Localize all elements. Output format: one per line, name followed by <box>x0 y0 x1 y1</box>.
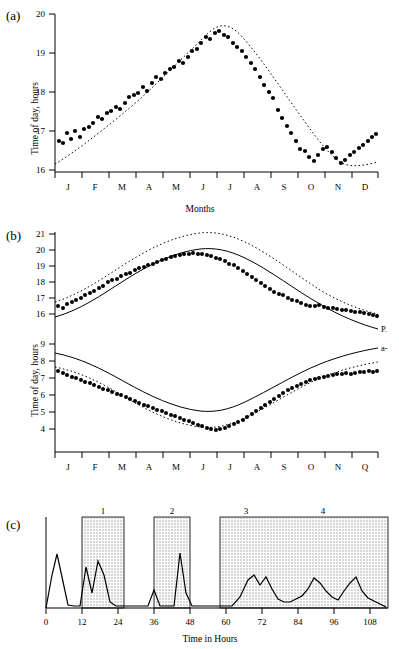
panel-a-label: (a) <box>6 8 20 24</box>
svg-text:A: A <box>254 182 261 192</box>
svg-text:A: A <box>146 462 153 472</box>
svg-text:J: J <box>66 462 70 472</box>
svg-text:M: M <box>118 182 126 192</box>
svg-text:16: 16 <box>36 309 46 319</box>
svg-text:84: 84 <box>294 617 304 627</box>
svg-text:S: S <box>281 462 286 472</box>
shaded-band-1 <box>82 517 124 608</box>
svg-text:O: O <box>308 462 315 472</box>
svg-text:60: 60 <box>222 617 232 627</box>
panel-a-plot: 16 17 18 19 20 JFM AMJ JAS OND <box>0 0 399 200</box>
svg-text:8: 8 <box>41 356 46 366</box>
panel-b-annotation-lower: a- <box>381 343 388 353</box>
svg-text:24: 24 <box>114 617 124 627</box>
svg-text:20: 20 <box>36 245 46 255</box>
svg-text:J: J <box>228 182 232 192</box>
panel-c-label: (c) <box>6 517 20 533</box>
svg-text:M: M <box>172 182 180 192</box>
svg-text:J: J <box>201 182 205 192</box>
panel-b-ylabel: Time of day, hours <box>30 344 40 417</box>
svg-text:4: 4 <box>41 424 46 434</box>
svg-text:J: J <box>228 462 232 472</box>
svg-text:5: 5 <box>41 407 46 417</box>
panel-b-upper-points <box>56 251 379 318</box>
svg-text:7: 7 <box>41 373 46 383</box>
panel-b-lower-points <box>56 369 379 432</box>
svg-text:J: J <box>66 182 70 192</box>
panel-b: (b) Time of day, hours 21 20 19 18 17 16 <box>0 222 399 502</box>
svg-text:F: F <box>92 462 97 472</box>
panel-a-points <box>57 29 378 165</box>
svg-text:O: O <box>308 182 315 192</box>
svg-text:A: A <box>146 182 153 192</box>
svg-text:F: F <box>92 182 97 192</box>
panel-a: (a) Time of day, hours Months 16 17 18 1… <box>0 0 399 218</box>
svg-text:N: N <box>335 462 342 472</box>
svg-text:19: 19 <box>36 261 46 271</box>
svg-text:108: 108 <box>363 617 377 627</box>
panel-b-annotation-upper: P. <box>381 324 387 334</box>
svg-text:A: A <box>254 462 261 472</box>
svg-text:Q: Q <box>362 462 369 472</box>
svg-text:M: M <box>172 462 180 472</box>
shaded-band-2 <box>154 517 190 608</box>
svg-text:36: 36 <box>150 617 160 627</box>
band-label-4: 4 <box>321 506 326 516</box>
svg-text:17: 17 <box>36 293 46 303</box>
svg-text:6: 6 <box>41 390 46 400</box>
svg-text:0: 0 <box>44 617 49 627</box>
svg-text:18: 18 <box>36 277 46 287</box>
panel-a-ylabel: Time of day, hours <box>30 82 40 155</box>
svg-text:16: 16 <box>36 165 46 175</box>
band-label-3: 3 <box>244 506 249 516</box>
svg-text:J: J <box>201 462 205 472</box>
svg-text:S: S <box>281 182 286 192</box>
svg-text:20: 20 <box>36 9 46 19</box>
svg-text:72: 72 <box>258 617 267 627</box>
band-label-1: 1 <box>101 506 106 516</box>
panel-c-plot: 1 2 3 4 01224 364860 728496 108 <box>0 505 399 635</box>
panel-c-xlabel: Time in Hours <box>140 634 280 644</box>
panel-a-xlabel: Months <box>150 204 250 214</box>
svg-text:48: 48 <box>186 617 196 627</box>
panel-b-plot: 21 20 19 18 17 16 9 8 7 6 5 4 <box>0 222 399 497</box>
svg-text:12: 12 <box>78 617 87 627</box>
svg-text:N: N <box>335 182 342 192</box>
svg-text:96: 96 <box>330 617 340 627</box>
svg-text:19: 19 <box>36 48 46 58</box>
panel-c: (c) Time in Hours 1 2 3 4 <box>0 505 399 649</box>
svg-text:M: M <box>118 462 126 472</box>
svg-text:9: 9 <box>41 339 46 349</box>
panel-b-label: (b) <box>6 228 21 244</box>
band-label-2: 2 <box>170 506 175 516</box>
svg-text:21: 21 <box>36 229 45 239</box>
svg-text:D: D <box>362 182 369 192</box>
